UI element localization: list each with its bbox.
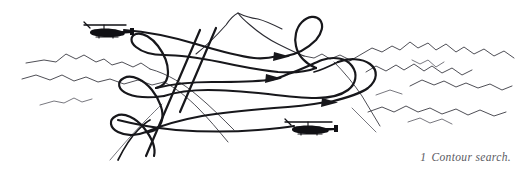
ridge-left-low	[40, 98, 92, 105]
track-3-turn-tail	[314, 62, 338, 72]
helicopter2-tail-boom	[322, 128, 336, 131]
search-track-1	[124, 17, 322, 73]
search-track-4	[111, 115, 294, 156]
helicopter2-tail-rotor	[334, 125, 338, 132]
track-2-outbound	[164, 90, 268, 96]
ridge-left-upper	[26, 54, 150, 69]
figure-caption: 1Contour search.	[420, 151, 511, 163]
flight-direction-arrow-2	[265, 74, 282, 83]
helicopter-tail-boom	[118, 31, 132, 34]
track-1-inbound	[124, 30, 278, 58]
ridge-right-mid-left	[376, 90, 402, 95]
ridge-right-low	[368, 106, 506, 116]
figure-caption-number: 1	[420, 151, 426, 163]
ridge-right-mid	[410, 80, 512, 90]
track-1-turn-right	[286, 17, 322, 68]
ridge-right-upper	[348, 42, 514, 62]
ridge-left-mid	[22, 75, 164, 85]
slope-center-right-2	[352, 108, 376, 132]
mountain-peak	[196, 13, 350, 60]
ridge-right-lowest	[408, 118, 452, 124]
ridge-right-second	[366, 64, 472, 75]
figure-caption-text: Contour search.	[431, 151, 511, 163]
figure-container: 1Contour search.	[0, 0, 523, 171]
track-1-outbound	[164, 55, 316, 72]
contour-search-illustration	[0, 0, 523, 171]
helicopter-tail-rotor	[130, 28, 134, 35]
